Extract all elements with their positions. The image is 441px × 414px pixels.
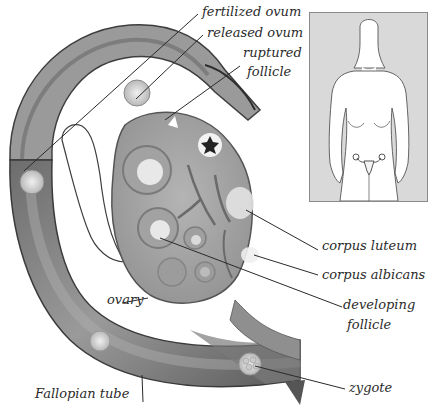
diagram-canvas: fertilized ovum released ovum ruptured f…	[0, 0, 441, 414]
label-zygote: zygote	[349, 380, 392, 395]
label-ruptured-follicle-line2: follicle	[247, 64, 291, 79]
label-released-ovum: released ovum	[207, 25, 303, 40]
label-fallopian-tube: Fallopian tube	[35, 386, 129, 401]
label-fertilized-ovum: fertilized ovum	[202, 4, 301, 19]
female-body-outline-icon	[310, 13, 427, 201]
label-ovary: ovary	[107, 292, 143, 307]
label-ruptured-follicle-line1: ruptured	[243, 45, 302, 60]
label-developing-follicle-line1: developing	[343, 297, 415, 312]
label-corpus-luteum: corpus luteum	[322, 238, 417, 253]
body-location-inset	[309, 12, 428, 202]
label-developing-follicle-line2: follicle	[347, 317, 391, 332]
label-corpus-albicans: corpus albicans	[322, 267, 425, 282]
ovary-shape	[112, 112, 259, 303]
